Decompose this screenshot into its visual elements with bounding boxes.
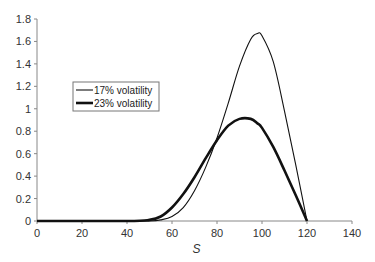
y-tick-label: 0.8	[16, 125, 31, 137]
x-tick-label: 60	[166, 227, 178, 239]
x-tick-label: 140	[343, 227, 361, 239]
line-chart: 00.20.40.60.811.21.41.61.802040608010012…	[0, 0, 375, 262]
x-tick-label: 40	[121, 227, 133, 239]
y-tick-label: 0.2	[16, 193, 31, 205]
y-tick-label: 1	[25, 103, 31, 115]
legend: 17% volatility23% volatility	[73, 82, 159, 111]
axes: 00.20.40.60.811.21.41.61.802040608010012…	[16, 13, 361, 256]
y-tick-label: 0.4	[16, 170, 31, 182]
x-tick-label: 0	[34, 227, 40, 239]
legend-label: 23% volatility	[94, 98, 152, 109]
x-axis-title: S	[192, 242, 200, 256]
series-line-1	[37, 33, 307, 221]
x-tick-label: 20	[76, 227, 88, 239]
x-tick-label: 80	[211, 227, 223, 239]
y-tick-label: 0.6	[16, 148, 31, 160]
y-tick-label: 1.6	[16, 35, 31, 47]
curves	[37, 33, 307, 221]
y-tick-label: 1.4	[16, 58, 31, 70]
y-tick-label: 1.2	[16, 80, 31, 92]
x-tick-label: 100	[253, 227, 271, 239]
y-tick-label: 0	[25, 215, 31, 227]
x-tick-label: 120	[298, 227, 316, 239]
y-tick-label: 1.8	[16, 13, 31, 25]
series-line-2	[37, 118, 307, 221]
legend-label: 17% volatility	[94, 85, 152, 96]
